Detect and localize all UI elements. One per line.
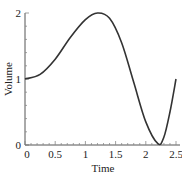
x-tick-label: 0 [24, 148, 30, 160]
x-tick-label: 2.5 [169, 148, 182, 160]
volume-line [25, 13, 176, 145]
x-tick-label: 1 [83, 148, 89, 160]
y-tick-label: 2 [16, 7, 22, 19]
y-tick-labels: 012 [16, 7, 22, 151]
x-tick-labels: 00.511.522.5 [24, 148, 182, 160]
chart: 012 00.511.522.5 Volume Time [0, 0, 182, 176]
x-axis-label: Time [92, 162, 115, 174]
y-axis-label: Volume [2, 62, 14, 96]
y-tick-label: 0 [16, 139, 22, 151]
x-tick-label: 1.5 [109, 148, 123, 160]
x-tick-label: 0.5 [48, 148, 62, 160]
x-tick-label: 2 [143, 148, 149, 160]
y-tick-label: 1 [16, 73, 22, 85]
